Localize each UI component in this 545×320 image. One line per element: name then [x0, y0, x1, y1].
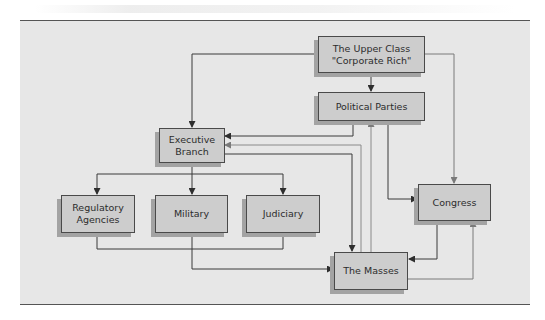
node-executive-branch-label: Executive Branch [169, 134, 215, 158]
node-judiciary[interactable]: Judiciary [246, 195, 320, 233]
node-judiciary-label: Judiciary [263, 208, 304, 220]
diagram-panel [20, 20, 530, 305]
node-military[interactable]: Military [155, 195, 228, 233]
node-regulatory-agencies[interactable]: Regulatory Agencies [61, 195, 135, 233]
node-masses[interactable]: The Masses [334, 252, 408, 290]
bleed-through-text [35, 5, 515, 13]
node-executive-branch[interactable]: Executive Branch [159, 128, 225, 163]
node-congress[interactable]: Congress [418, 184, 491, 221]
node-regulatory-agencies-label: Regulatory Agencies [72, 202, 124, 226]
node-political-parties-label: Political Parties [336, 101, 408, 113]
node-military-label: Military [174, 208, 209, 220]
node-masses-label: The Masses [343, 265, 398, 277]
node-upper-class-label: The Upper Class "Corporate Rich" [332, 43, 412, 67]
node-upper-class[interactable]: The Upper Class "Corporate Rich" [318, 36, 425, 73]
node-congress-label: Congress [433, 197, 477, 209]
node-political-parties[interactable]: Political Parties [318, 92, 425, 121]
